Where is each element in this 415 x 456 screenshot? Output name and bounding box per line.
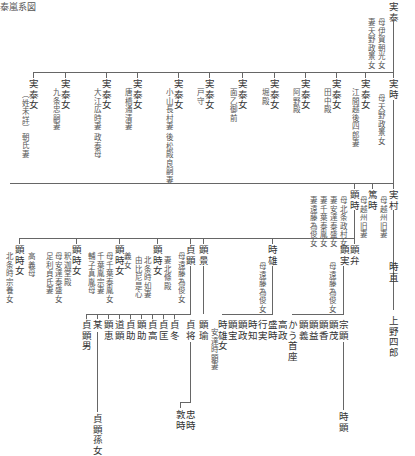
tick [130, 314, 131, 319]
node-daughter-7: 実泰女 [173, 79, 183, 111]
note-daughter-8: 唐橋通清妻 [123, 88, 131, 131]
node-akisuke: 顕助 [136, 320, 146, 341]
node-takamasa: 高政 [277, 320, 287, 341]
tick [372, 183, 373, 189]
note-daughter-4: 堀殿 [260, 88, 268, 105]
node-daughter-10: 実泰女 [60, 79, 70, 111]
note-akitoki-wife1: 妻安達泰盛女 [328, 196, 336, 247]
node-akiyoshi: 顕義 [298, 320, 308, 341]
node-akishige: 顕茂 [328, 320, 338, 341]
line-gen1-bar [33, 72, 394, 73]
note-daughter-3: 阿野殿 [291, 88, 299, 114]
node-akitoki-daughter-4: 顕時女 [152, 245, 162, 277]
tick [393, 183, 394, 189]
tick [272, 238, 273, 244]
tick [97, 314, 98, 319]
tick [393, 72, 394, 78]
line-akizane-children-bar [292, 314, 344, 315]
line-gen2-bar [10, 183, 394, 184]
note-akitoki-daughter-2a: 釈迦堂殿 [62, 252, 70, 286]
line-bou-down [97, 332, 98, 412]
line-root-down [393, 22, 394, 72]
node-kau-shuza: かう首座 [287, 320, 297, 362]
tick [163, 314, 164, 319]
node-daughter-1: 実泰女 [360, 79, 370, 111]
node-uenoshiro: 上野四郎 [388, 316, 398, 358]
tick [157, 238, 158, 244]
node-muneaki: 宗顕 [338, 320, 348, 341]
tick [209, 72, 210, 78]
line-akitoki-down [354, 210, 355, 238]
tick [19, 238, 20, 244]
node-daughter-8: 実泰女 [132, 79, 142, 111]
line-sadaaki-down [190, 266, 191, 314]
line-akizane-down [343, 266, 344, 314]
note-daughter-11: （姓未詳）朝氏妻 [10, 90, 28, 158]
node-tokio-daughter: 時雄女 [217, 320, 227, 352]
node-akitoki-daughter-1: 顕時女 [14, 245, 24, 277]
note-akitoki-daughter-2b: 母安達泰盛女 [53, 252, 61, 303]
tick [137, 72, 138, 78]
note-daughter-6: 戸守 [195, 88, 203, 105]
line-sanetoki-down [393, 100, 394, 183]
tick [108, 314, 109, 319]
root-note-wife: 妻天野政景女 [366, 18, 374, 69]
chart-title: 泰嵐系図 [0, 0, 36, 13]
node-daughter-9: 実泰女 [101, 79, 111, 111]
node-daughter-2: 実泰女 [331, 79, 341, 111]
node-sadaaki-son: 貞顕男 [81, 320, 91, 352]
tick [354, 183, 355, 189]
node-akizane: 顕実 [339, 245, 349, 266]
node-tokinao: 時直 [388, 262, 398, 283]
node-sadaaki: 貞顕 [185, 245, 195, 266]
node-sadataka: 貞高 [147, 320, 157, 341]
node-daughter-11: 実泰女 [28, 79, 38, 111]
line-tokio-children-bar [222, 314, 273, 315]
tick [365, 72, 366, 78]
node-sanemura: 実村 [388, 190, 398, 211]
node-yukizane: 行実 [257, 320, 267, 341]
node-daughter-3: 実泰女 [300, 79, 310, 111]
note-akitoki-daughter-3a: 母千葉泰胤女 [104, 252, 112, 303]
note-akitoki-daughter-2c: 足利貞氏妻 [44, 252, 52, 295]
note-akitoki-wife2: 妻千葉泰胤女 [318, 196, 326, 247]
node-akitoki-daughter-2: 顕時女 [71, 245, 81, 277]
tick [152, 314, 153, 319]
node-tadatoki: 忠時 [185, 410, 195, 431]
node-sadafuyu: 貞冬 [169, 320, 179, 341]
tick [106, 72, 107, 78]
node-dougen: 道顕 [114, 320, 124, 341]
node-akitoki: 顕時 [349, 190, 359, 211]
note-akinori: 安達時顕妻 [209, 328, 217, 371]
note-akitoki-daughter-3-adopted: 義女 [122, 252, 130, 269]
tick [336, 72, 337, 78]
node-akimasa: 顕政 [237, 320, 247, 341]
tick [119, 238, 120, 244]
tick [178, 72, 179, 78]
note-daughter-7: 小山長村妻 後松殿良嗣妻 [154, 88, 172, 184]
node-sadamasa: 貞将 [185, 320, 195, 341]
tick [203, 238, 204, 244]
note-akitoki-daughter-4-extra: 妻北條殿 [162, 256, 170, 290]
tick [305, 72, 306, 78]
tick [119, 314, 120, 319]
node-tokiaki: 時顕 [338, 412, 348, 433]
node-akika: 顕香 [318, 320, 328, 341]
line-sadamasa-down [190, 342, 191, 402]
node-akitaka: 顕宝 [227, 320, 237, 341]
note-sadaaki: 母遠藤為俊女 [176, 252, 184, 303]
note-sanemura: 母越州旧妻 [378, 196, 386, 239]
node-bou: 某 [92, 320, 102, 331]
node-sadasuke: 貞助 [125, 320, 135, 341]
tick [86, 314, 87, 319]
note-daughter-5: 面乙御前 [228, 88, 236, 122]
line-akikage-down [203, 266, 204, 314]
note-akitoki-daughter-1-extra: 高義母 [26, 252, 34, 278]
tick [354, 238, 355, 244]
root-note-mother: 母伊賀朝光女 [376, 18, 384, 69]
note-tokio: 母遠藤為俊女 [257, 262, 265, 313]
node-sadamasa2: 貞匡 [158, 320, 168, 341]
tick [65, 72, 66, 78]
node-granddaughter: 貞顕孫女 [92, 414, 102, 456]
note-akitoki-daughter-3c: 輔子真胤母 [86, 252, 94, 295]
